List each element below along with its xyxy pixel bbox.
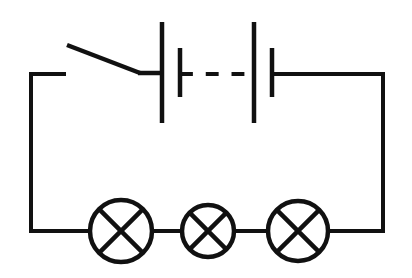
circuit-canvas <box>0 0 412 278</box>
diagram-background <box>0 0 412 278</box>
circuit-diagram <box>0 0 412 278</box>
